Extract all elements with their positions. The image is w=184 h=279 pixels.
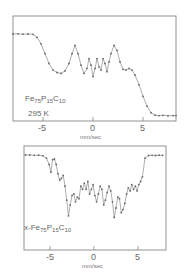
data-point <box>42 155 44 157</box>
data-point <box>12 33 14 35</box>
data-point <box>105 199 107 201</box>
data-point <box>60 73 62 75</box>
data-point <box>98 66 100 68</box>
data-point <box>172 115 174 117</box>
data-point <box>129 190 131 192</box>
data-point <box>40 43 42 45</box>
data-point <box>122 209 124 211</box>
data-point <box>94 68 96 70</box>
data-point <box>48 164 50 166</box>
data-point <box>158 115 160 117</box>
data-point <box>110 190 112 192</box>
data-point <box>68 63 70 65</box>
data-point <box>122 68 124 70</box>
data-point <box>140 181 142 183</box>
data-point <box>76 196 78 198</box>
data-point <box>151 154 153 156</box>
data-point <box>85 188 87 190</box>
data-point <box>102 58 104 60</box>
data-point <box>162 114 164 116</box>
data-point <box>126 193 128 195</box>
data-point <box>158 154 160 156</box>
data-point <box>112 201 114 203</box>
data-point <box>94 195 96 197</box>
data-point <box>148 155 150 157</box>
bottom-x-axis-label: mm/sec <box>82 263 103 269</box>
data-point <box>116 50 118 52</box>
data-point <box>113 217 115 219</box>
data-point <box>55 164 57 166</box>
data-point <box>52 159 54 161</box>
data-point <box>175 115 177 117</box>
data-point <box>44 53 46 55</box>
data-point <box>92 76 94 78</box>
data-point <box>127 187 129 189</box>
data-point <box>27 33 29 35</box>
data-point <box>73 193 75 195</box>
data-point <box>133 188 135 190</box>
data-point <box>96 201 98 203</box>
data-point <box>106 192 108 194</box>
data-point <box>32 33 34 35</box>
bottom-compound-label: x-Fe75P15C10 <box>24 224 71 233</box>
data-point <box>62 174 64 176</box>
data-point <box>146 105 148 107</box>
data-point <box>89 193 91 195</box>
data-point <box>38 154 40 156</box>
data-point <box>131 184 133 186</box>
data-point <box>54 158 56 160</box>
data-point <box>80 185 82 187</box>
data-point <box>119 198 121 200</box>
data-point <box>83 182 85 184</box>
top-temperature-label: 295 K <box>28 110 49 118</box>
data-point <box>52 69 54 71</box>
data-point <box>104 63 106 65</box>
data-point <box>135 185 137 187</box>
bottom-tick-label-minus5: -5 <box>46 253 54 262</box>
data-point <box>17 33 19 35</box>
data-point <box>74 45 76 47</box>
data-point <box>36 36 38 38</box>
data-point <box>25 154 27 156</box>
data-point <box>113 45 115 47</box>
data-point <box>33 154 35 156</box>
data-point <box>154 114 156 116</box>
data-point <box>75 201 77 203</box>
data-point <box>80 64 82 66</box>
data-point <box>136 190 138 192</box>
data-point <box>90 64 92 66</box>
data-point <box>59 179 61 181</box>
data-point <box>71 53 73 55</box>
data-point <box>71 195 73 197</box>
data-point <box>155 155 157 157</box>
data-point <box>68 215 70 217</box>
data-point <box>83 73 85 75</box>
data-point <box>86 68 88 70</box>
data-point <box>128 68 130 70</box>
data-point <box>82 188 84 190</box>
top-tick-label-minus5: -5 <box>38 124 46 133</box>
data-point <box>100 69 102 71</box>
top-tick-label-0: 0 <box>90 124 95 133</box>
data-point <box>167 115 169 117</box>
data-point <box>138 84 140 86</box>
data-point <box>98 193 100 195</box>
data-point <box>117 196 119 198</box>
data-point <box>69 204 71 206</box>
data-point <box>125 69 127 71</box>
data-point <box>91 188 93 190</box>
data-point <box>61 178 63 180</box>
data-point <box>142 95 144 97</box>
data-point <box>120 212 122 214</box>
data-point <box>106 71 108 73</box>
data-point <box>115 207 117 209</box>
data-point <box>108 185 110 187</box>
data-point <box>119 61 121 63</box>
top-spectrum-panel: Fe75P15C10 295 K -5 0 5 mm/sec <box>0 0 184 140</box>
data-point <box>48 63 50 65</box>
data-point <box>144 157 146 159</box>
data-point <box>56 72 58 74</box>
bottom-tick-label-5: 5 <box>135 253 140 262</box>
data-point <box>142 176 144 178</box>
data-point <box>99 185 101 187</box>
